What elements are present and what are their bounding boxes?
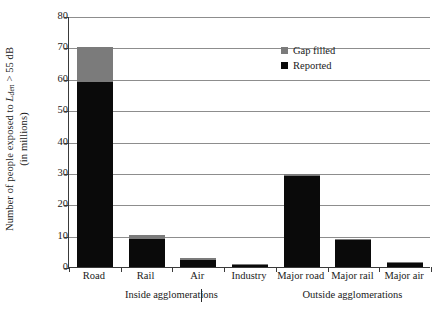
y-axis-tick-label: 0	[42, 261, 68, 272]
y-axis-tick-label: 10	[42, 230, 68, 241]
x-axis-category-label: Major air	[384, 270, 423, 281]
y-axis-tick-label: 30	[42, 167, 68, 178]
bar-segment[interactable]	[335, 239, 371, 240]
y-axis-tick-label: 60	[42, 73, 68, 84]
bar-group[interactable]	[129, 235, 165, 267]
y-axis-tick-mark	[64, 268, 69, 269]
chart-figure: Number of people exposed to Lden > 55 dB…	[0, 0, 442, 318]
y-axis-title: Number of people exposed to Lden > 55 dB…	[4, 47, 30, 231]
y-axis-title-suffix: > 55 dB	[4, 47, 15, 84]
x-axis-category-label: Rail	[137, 270, 155, 281]
bar-segment[interactable]	[180, 260, 216, 267]
x-axis-category-label: Major rail	[331, 270, 373, 281]
bar-segment[interactable]	[387, 263, 423, 267]
y-axis-tick-label: 70	[42, 41, 68, 52]
y-axis-title-prefix: Number of people exposed to	[4, 101, 15, 231]
y-axis-tick-mark	[64, 205, 69, 206]
legend-swatch-gap-filled	[281, 47, 288, 54]
x-axis-category-label: Road	[83, 270, 105, 281]
bar-segment[interactable]	[284, 176, 320, 267]
bar-segment[interactable]	[387, 262, 423, 263]
legend-item-gap-filled: Gap filled	[281, 43, 401, 58]
bar-segment[interactable]	[232, 264, 268, 267]
chart-legend: Gap filled Reported	[281, 43, 401, 73]
bar-group[interactable]	[387, 262, 423, 267]
y-axis-tick-label: 40	[42, 136, 68, 147]
bar-segment[interactable]	[335, 239, 371, 267]
y-axis-tick-label: 50	[42, 104, 68, 115]
y-axis-title-container: Number of people exposed to Lden > 55 dB…	[0, 0, 34, 278]
y-axis-tick-label: 80	[42, 10, 68, 21]
y-axis-title-units: (in millions)	[18, 47, 30, 231]
bar-group[interactable]	[180, 258, 216, 267]
y-axis-tick-labels: 01020304050607080	[34, 17, 68, 268]
x-axis-category-labels: RoadRailAirIndustryMajor roadMajor railM…	[68, 270, 430, 286]
x-axis-category-label: Industry	[232, 270, 267, 281]
y-axis-tick-mark	[64, 111, 69, 112]
y-axis-tick-label: 20	[42, 198, 68, 209]
y-axis-title-symbol: L	[4, 95, 15, 101]
group-divider	[201, 289, 202, 302]
y-axis-tick-mark	[64, 80, 69, 81]
bar-segment[interactable]	[129, 239, 165, 267]
legend-swatch-reported	[281, 62, 288, 69]
x-axis-category-label: Air	[190, 270, 204, 281]
bar-group[interactable]	[232, 264, 268, 267]
bar-group[interactable]	[284, 174, 320, 267]
legend-label-reported: Reported	[293, 60, 332, 71]
y-axis-tick-mark	[64, 237, 69, 238]
y-axis-tick-mark	[64, 48, 69, 49]
legend-item-reported: Reported	[281, 58, 401, 73]
x-axis-group-labels: Inside agglomerationsOutside agglomerati…	[68, 289, 430, 307]
x-axis-group-label: Inside agglomerations	[125, 289, 218, 300]
y-axis-tick-mark	[64, 174, 69, 175]
bar-segment[interactable]	[129, 235, 165, 238]
plot-area: Gap filled Reported	[68, 17, 430, 268]
x-axis-group-label: Outside agglomerations	[302, 289, 402, 300]
bar-segment[interactable]	[77, 82, 113, 267]
bar-segment[interactable]	[284, 174, 320, 176]
bar-segment[interactable]	[77, 47, 113, 82]
y-axis-title-subscript: den	[7, 84, 16, 95]
y-axis-tick-mark	[64, 143, 69, 144]
bar-group[interactable]	[335, 239, 371, 267]
bar-segment[interactable]	[180, 258, 216, 260]
x-axis-category-label: Major road	[277, 270, 324, 281]
y-axis-tick-mark	[64, 17, 69, 18]
bar-group[interactable]	[77, 47, 113, 267]
legend-label-gap-filled: Gap filled	[293, 45, 335, 56]
x-axis-tick-mark	[431, 267, 432, 272]
